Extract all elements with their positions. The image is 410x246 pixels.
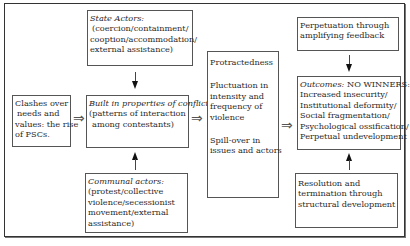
- built-in-line: (patterns of interaction: [89, 108, 186, 118]
- communal-actors-line: assistance): [88, 218, 185, 228]
- clashes-line: needs and: [15, 108, 68, 118]
- arrow-down-icon: [132, 81, 138, 89]
- outcomes-label: Outcomes:: [300, 79, 344, 89]
- resolution-line: Resolution and: [298, 178, 395, 188]
- spill-over-line: Spill-over in: [210, 135, 276, 145]
- communal-actors-title: Communal actors:: [88, 176, 185, 186]
- state-actors-title: State Actors:: [90, 13, 190, 23]
- double-arrow-icon: ⇒: [281, 118, 293, 132]
- communal-actors-line: (protest/collective: [88, 186, 185, 196]
- arrow-up-line: [349, 160, 350, 170]
- state-actors-line: external assistance): [90, 44, 190, 54]
- arrow-up-line: [135, 159, 136, 170]
- clashes-line: values: the rise: [15, 119, 68, 129]
- spill-over-line: issues and actors: [210, 145, 276, 155]
- clashes-line: Clashes over: [15, 98, 68, 108]
- outcome-item: Psychological ossification/: [300, 121, 398, 131]
- outcome-item: Social fragmentation/: [300, 110, 398, 120]
- protractedness-text: Protractedness: [210, 57, 276, 67]
- outcomes-box: Outcomes: NO WINNERS: Increased insecuri…: [297, 76, 401, 150]
- state-actors-line: cooption/accommodation/: [90, 34, 190, 44]
- communal-actors-line: movement/external: [88, 207, 185, 217]
- perpetuation-line: Perpetuation through: [300, 20, 396, 30]
- built-in-properties-box: Built in properties of conflict (pattern…: [86, 95, 189, 148]
- communal-actors-box: Communal actors: (protest/collective vio…: [85, 173, 188, 233]
- built-in-title: Built in properties of conflict: [89, 98, 186, 108]
- resolution-box: Resolution and termination through struc…: [295, 173, 398, 228]
- outcome-item: Perpetual undevelopment: [300, 131, 398, 141]
- arrow-down-icon: [346, 64, 352, 72]
- clashes-line: of PSCs.: [15, 129, 68, 139]
- state-actors-line: (coercion/containment/: [90, 23, 190, 33]
- fluctuation-line: violence: [210, 112, 276, 122]
- perpetuation-box: Perpetuation through amplifying feedback: [297, 17, 399, 51]
- fluctuation-line: frequency of: [210, 101, 276, 111]
- clashes-box: Clashes over needs and values: the rise …: [12, 95, 71, 147]
- double-arrow-icon: ⇒: [73, 111, 85, 125]
- fluctuation-line: intensity and: [210, 91, 276, 101]
- resolution-line: termination through: [298, 188, 395, 198]
- fluctuation-line: Fluctuation in: [210, 80, 276, 90]
- state-actors-box: State Actors: (coercion/containment/ coo…: [87, 10, 193, 66]
- outcome-item: Institutional deformity/: [300, 100, 398, 110]
- communal-actors-line: violence/secessionist: [88, 197, 185, 207]
- resolution-line: structural development: [298, 199, 395, 209]
- outcomes-heading: NO WINNERS:: [344, 79, 410, 89]
- outcome-item: Increased insecurity/: [300, 89, 398, 99]
- perpetuation-line: amplifying feedback: [300, 30, 396, 40]
- double-arrow-icon: ⇒: [191, 111, 203, 125]
- built-in-line: among contestants): [89, 119, 186, 129]
- outcomes-title: Outcomes: NO WINNERS:: [300, 79, 398, 89]
- conflict-dynamics-box: Protractedness Fluctuation in intensity …: [207, 51, 279, 198]
